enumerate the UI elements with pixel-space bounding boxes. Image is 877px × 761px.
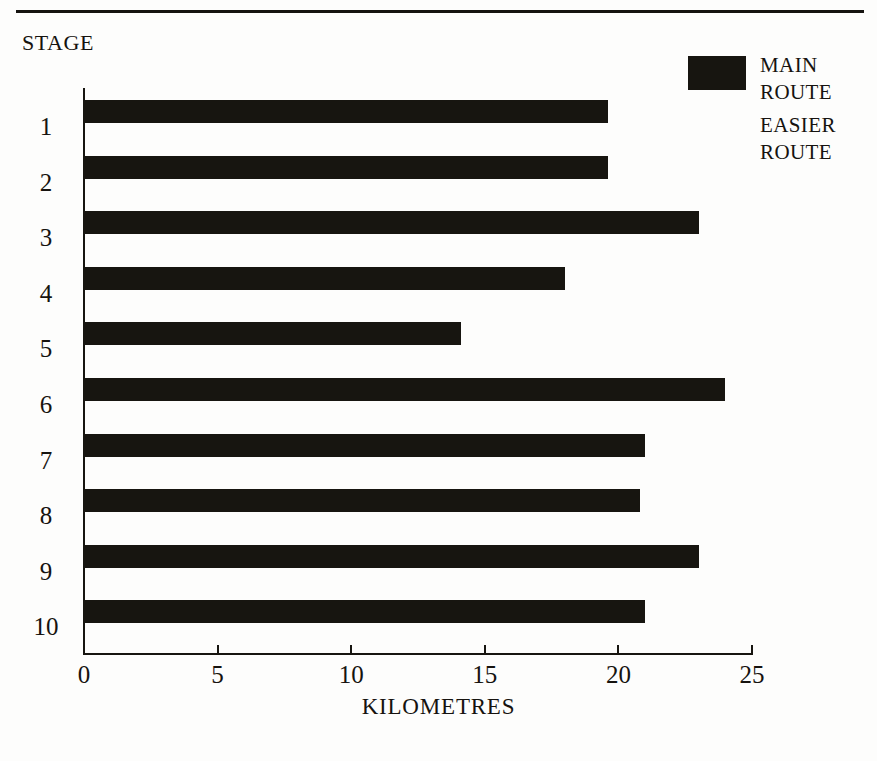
y-axis-category-label: 3	[20, 224, 72, 252]
y-axis-category-label: 4	[20, 280, 72, 308]
x-axis-tick-label: 20	[606, 661, 631, 689]
bar-main-route-stage-3	[84, 211, 699, 234]
x-axis-tick	[350, 645, 352, 655]
x-axis-tick-label: 10	[339, 661, 364, 689]
x-axis-tick-label: 5	[211, 661, 224, 689]
x-axis-tick-label: 0	[78, 661, 91, 689]
x-axis-tick	[751, 645, 753, 655]
x-axis-tick-label: 15	[472, 661, 497, 689]
bar-main-route-stage-5	[84, 322, 461, 345]
y-axis-category-label: 7	[20, 447, 72, 475]
x-axis-tick	[217, 645, 219, 655]
x-axis-title: KILOMETRES	[0, 694, 877, 720]
bar-main-route-stage-1	[84, 100, 608, 123]
bar-main-route-stage-8	[84, 489, 640, 512]
plot-area: KILOMETRES 051015202512345678910	[0, 0, 877, 761]
y-axis-category-label: 1	[20, 113, 72, 141]
bar-main-route-stage-9	[84, 545, 699, 568]
y-axis-category-label: 9	[20, 558, 72, 586]
bar-main-route-stage-4	[84, 267, 565, 290]
y-axis-category-label: 6	[20, 391, 72, 419]
bar-main-route-stage-6	[84, 378, 725, 401]
y-axis-category-label: 10	[20, 613, 72, 641]
x-axis-tick-label: 25	[740, 661, 765, 689]
bar-main-route-stage-2	[84, 156, 608, 179]
bar-main-route-stage-7	[84, 434, 645, 457]
y-axis-category-label: 8	[20, 502, 72, 530]
x-axis-line	[83, 653, 752, 655]
x-axis-tick	[617, 645, 619, 655]
y-axis-category-label: 5	[20, 335, 72, 363]
y-axis-category-label: 2	[20, 169, 72, 197]
x-axis-tick	[484, 645, 486, 655]
bar-main-route-stage-10	[84, 600, 645, 623]
x-axis-tick	[83, 645, 85, 655]
chart-page: STAGE MAIN ROUTE EASIER ROUTE KILOMETRES…	[0, 0, 877, 761]
